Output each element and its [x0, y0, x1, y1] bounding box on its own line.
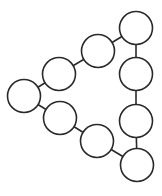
node-circle-n9: [120, 105, 153, 138]
node-circle-n2: [82, 35, 115, 68]
node-circle-n5: [44, 102, 77, 135]
node-circle-n6: [81, 125, 114, 158]
node-layer: [8, 12, 154, 182]
diagram-canvas: [0, 0, 162, 196]
node-graph: [0, 0, 162, 196]
node-circle-n8: [120, 58, 153, 91]
node-circle-n4: [8, 80, 41, 113]
node-circle-n7: [121, 149, 154, 182]
node-circle-n1: [120, 12, 153, 45]
node-circle-n3: [43, 58, 76, 91]
